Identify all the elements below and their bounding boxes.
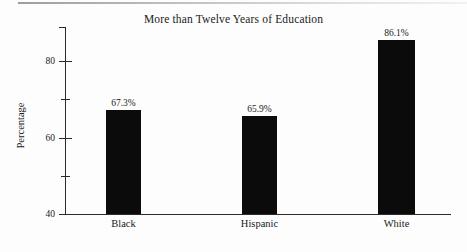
x-category-label-white: White [356, 218, 437, 229]
bar-chart-figure: More than Twelve Years of Education 80 6… [0, 0, 467, 252]
y-tick-60 [59, 138, 72, 139]
y-tick-80 [59, 61, 72, 62]
x-category-label-black: Black [83, 218, 164, 229]
scan-edge-artifact [18, 2, 467, 4]
bar-black [106, 110, 141, 214]
y-tick-label-80: 80 [15, 56, 55, 66]
bar-white [378, 40, 415, 214]
bar-value-hispanic: 65.9% [219, 104, 300, 114]
y-tick-minor-70 [61, 99, 70, 100]
y-tick-label-40: 40 [15, 209, 55, 219]
x-category-label-hispanic: Hispanic [219, 218, 300, 229]
y-axis-line [65, 27, 66, 215]
y-tick-minor-50 [61, 176, 70, 177]
x-axis-line [59, 214, 451, 215]
bar-value-black: 67.3% [83, 98, 164, 108]
bar-hispanic [242, 116, 277, 214]
y-axis-title: Percentage [15, 80, 26, 172]
chart-title: More than Twelve Years of Education [0, 13, 467, 25]
bar-value-white: 86.1% [356, 28, 437, 38]
